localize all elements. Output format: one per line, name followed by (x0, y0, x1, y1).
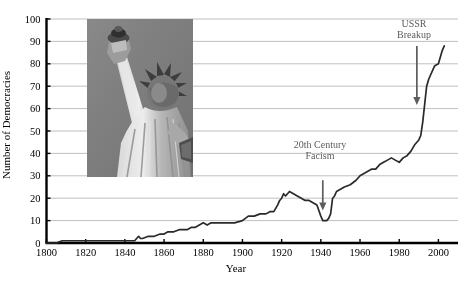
annotation-fascism-line2: Facism (283, 150, 357, 161)
svg-text:80: 80 (30, 58, 41, 69)
svg-text:60: 60 (30, 103, 41, 114)
annotation-ussr-line1: USSR (383, 18, 445, 29)
svg-text:1920: 1920 (271, 247, 292, 258)
svg-text:20: 20 (30, 193, 41, 204)
annotation-ussr-line2: Breakup (383, 29, 445, 40)
democracies-chart: 0102030405060708090100 18001820184018601… (0, 0, 472, 287)
annotation-arrows (319, 46, 420, 211)
svg-text:2000: 2000 (428, 247, 449, 258)
svg-text:30: 30 (30, 170, 41, 181)
svg-text:1820: 1820 (75, 247, 96, 258)
svg-text:1860: 1860 (154, 247, 175, 258)
statue-of-liberty-photo (87, 19, 193, 177)
annotation-fascism-line1: 20th Century (283, 139, 357, 150)
svg-text:1940: 1940 (310, 247, 331, 258)
annotation-ussr: USSR Breakup (383, 18, 445, 40)
svg-text:1980: 1980 (389, 247, 410, 258)
svg-text:40: 40 (30, 148, 41, 159)
plot-area: 0102030405060708090100 18001820184018601… (0, 0, 472, 287)
svg-text:1960: 1960 (350, 247, 371, 258)
svg-text:1840: 1840 (114, 247, 135, 258)
x-axis-title: Year (0, 262, 472, 274)
svg-text:50: 50 (30, 126, 41, 137)
annotation-fascism: 20th Century Facism (283, 139, 357, 161)
svg-text:10: 10 (30, 215, 41, 226)
svg-text:1880: 1880 (193, 247, 214, 258)
svg-text:90: 90 (30, 36, 41, 47)
svg-text:1900: 1900 (232, 247, 253, 258)
svg-text:100: 100 (25, 14, 41, 25)
y-axis-title-text: Number of Democracies (0, 71, 12, 179)
svg-text:1800: 1800 (36, 247, 57, 258)
y-axis-title: Number of Democracies (0, 0, 14, 250)
svg-text:70: 70 (30, 81, 41, 92)
